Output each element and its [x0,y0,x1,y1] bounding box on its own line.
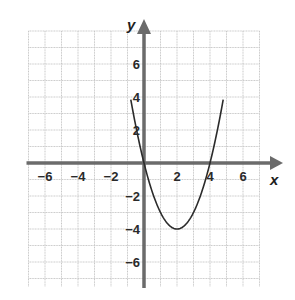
x-tick-label: 2 [173,169,180,184]
parabola-graph: −6−4−2246 −6−4−2246 x y [0,0,295,300]
x-tick-label: 6 [239,169,246,184]
axes [27,19,284,288]
y-tick-label: −2 [125,189,140,204]
y-tick-label: 6 [133,57,140,72]
y-tick-label: 2 [133,123,140,138]
y-axis-label: y [126,16,136,33]
x-tick-label: −4 [71,169,87,184]
x-axis-label: x [269,171,279,188]
x-tick-label: −2 [104,169,119,184]
x-tick-label: −6 [38,169,53,184]
y-tick-label: 4 [133,90,141,105]
x-tick-labels: −6−4−2246 [38,169,247,184]
x-tick-label: 4 [206,169,214,184]
y-tick-label: −6 [125,255,140,270]
y-tick-label: −4 [125,222,141,237]
x-axis-arrow-icon [270,156,283,170]
y-axis-arrow-icon [137,19,151,34]
